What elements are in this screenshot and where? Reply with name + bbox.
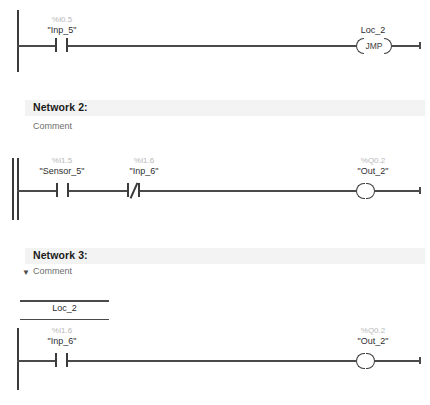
rung-wire-left	[17, 45, 55, 47]
rung-wire-seg-3	[140, 190, 356, 192]
contact-no-inp6[interactable]	[55, 353, 68, 367]
ladder-editor-canvas: %I0.5 "Inp_5" Loc_2 JMP Network 2: Comme…	[0, 0, 430, 405]
operand-label: %I1.6 "Inp_6"	[22, 325, 102, 347]
rung-end-tick	[419, 187, 421, 194]
contact-bar-left	[55, 38, 57, 52]
operand-label: %I0.5 "Inp_5"	[22, 14, 102, 36]
coil-paren-right	[366, 353, 375, 369]
jump-label-line-top	[20, 300, 109, 302]
jump-destination-label[interactable]: Loc_2	[20, 300, 109, 320]
contact-no-inp5[interactable]	[55, 38, 68, 52]
operand-address: %I1.5	[16, 155, 108, 166]
rung-wire-seg-2	[69, 190, 127, 192]
operand-symbol: "Inp_6"	[104, 166, 184, 177]
operand-label: %Q0.2 "Out_2"	[338, 155, 408, 177]
rung-wire-right	[68, 45, 356, 47]
operand-address: %I0.5	[22, 14, 102, 25]
operand-address: %Q0.2	[338, 155, 408, 166]
network-3-comment[interactable]: Comment	[33, 266, 72, 276]
network-3-title: Network 3:	[33, 249, 88, 261]
rung-end-tick	[419, 357, 421, 364]
output-coil-out2[interactable]	[356, 183, 375, 199]
rung-wire-end	[375, 360, 420, 362]
jmp-target-symbol: Loc_2	[338, 25, 408, 36]
contact-bar-left	[55, 353, 57, 367]
left-power-rail	[17, 10, 19, 72]
rung-wire-left	[17, 360, 55, 362]
operand-label: %I1.5 "Sensor_5"	[16, 155, 108, 177]
rung-end-tick	[419, 42, 421, 49]
output-coil-out2[interactable]	[356, 353, 375, 369]
contact-no-sensor5[interactable]	[56, 183, 69, 197]
chevron-down-icon[interactable]: ▼	[22, 269, 30, 277]
operand-label: %Q0.2 "Out_2"	[338, 325, 408, 347]
operand-address: %I1.6	[22, 325, 102, 336]
network-2-header-bar[interactable]: Network 2:	[25, 100, 425, 116]
operand-address: %Q0.2	[338, 325, 408, 336]
rung-wire-seg-1	[17, 190, 56, 192]
operand-symbol: "Inp_6"	[22, 336, 102, 347]
coil-paren-left	[356, 183, 365, 199]
coil-paren-left	[356, 353, 365, 369]
jump-destination-text: Loc_2	[20, 303, 109, 313]
contact-negate-slash	[129, 182, 137, 198]
left-power-rail	[17, 328, 19, 390]
network-2-title: Network 2:	[33, 101, 88, 113]
operand-symbol: "Out_2"	[338, 336, 408, 347]
contact-nc-inp6[interactable]	[127, 183, 140, 197]
jmp-coil[interactable]: JMP	[356, 38, 392, 54]
coil-paren-right	[366, 183, 375, 199]
jmp-operand-label: Loc_2	[338, 25, 408, 36]
operand-label: %I1.6 "Inp_6"	[104, 155, 184, 177]
operand-address: %I1.6	[104, 155, 184, 166]
jump-label-line-bottom	[20, 319, 109, 321]
operand-symbol: "Inp_5"	[22, 25, 102, 36]
network-3-header-bar[interactable]: Network 3:	[25, 248, 425, 264]
contact-bar-left	[56, 183, 58, 197]
network-2-comment[interactable]: Comment	[33, 121, 72, 131]
contact-bar-left	[127, 183, 129, 197]
operand-symbol: "Out_2"	[338, 166, 408, 177]
rung-wire-end	[375, 190, 420, 192]
jmp-coil-label: JMP	[356, 39, 392, 53]
left-power-rail-outer	[12, 158, 14, 220]
operand-symbol: "Sensor_5"	[16, 166, 108, 177]
rung-wire-end	[392, 45, 420, 47]
rung-wire-right	[68, 360, 356, 362]
